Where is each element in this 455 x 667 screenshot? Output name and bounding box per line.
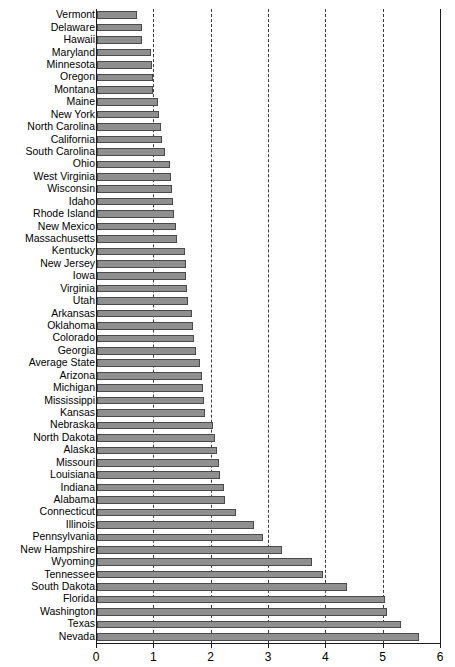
- category-label: New Jersey: [40, 258, 95, 269]
- bar: [97, 235, 177, 243]
- category-label: Mississippi: [44, 395, 95, 406]
- bar: [97, 335, 194, 343]
- bar: [97, 260, 186, 268]
- category-label: Iowa: [73, 270, 95, 281]
- gridline-4: [325, 9, 326, 643]
- category-label: Maryland: [52, 47, 95, 58]
- category-label: Michigan: [53, 382, 95, 393]
- category-label: Oregon: [60, 71, 95, 82]
- x-tick-label: 0: [81, 649, 111, 665]
- category-label: Colorado: [52, 332, 95, 343]
- bar: [97, 61, 152, 69]
- bar: [97, 86, 153, 94]
- category-label: Oklahoma: [47, 320, 95, 331]
- bar: [97, 372, 202, 380]
- x-tick-mark-1: [153, 643, 154, 648]
- bar: [97, 571, 323, 579]
- category-label: Florida: [63, 593, 95, 604]
- bar: [97, 484, 224, 492]
- category-label: South Carolina: [26, 146, 95, 157]
- bar: [97, 322, 193, 330]
- category-label: Wisconsin: [47, 183, 95, 194]
- bar: [97, 111, 159, 119]
- x-tick-mark-2: [211, 643, 212, 648]
- category-label: Alabama: [54, 494, 95, 505]
- bar: [97, 434, 215, 442]
- category-label: South Dakota: [31, 581, 95, 592]
- bar: [97, 136, 162, 144]
- bar: [97, 558, 312, 566]
- bar: [97, 583, 347, 591]
- category-label: Connecticut: [40, 506, 95, 517]
- bar: [97, 173, 171, 181]
- bar: [97, 98, 158, 106]
- bar: [97, 546, 282, 554]
- bar: [97, 384, 203, 392]
- category-label: Texas: [68, 618, 95, 629]
- x-tick-mark-5: [383, 643, 384, 648]
- bar: [97, 285, 187, 293]
- category-label: Pennsylvania: [33, 531, 95, 542]
- category-label: California: [51, 134, 95, 145]
- bar: [97, 509, 236, 517]
- bar: [97, 272, 186, 280]
- category-label: Washington: [40, 606, 95, 617]
- x-tick-label: 2: [196, 649, 226, 665]
- category-label: Idaho: [69, 196, 95, 207]
- category-label: Illinois: [66, 519, 95, 530]
- bar: [97, 608, 387, 616]
- bar: [97, 397, 204, 405]
- bar: [97, 161, 170, 169]
- bar: [97, 148, 165, 156]
- category-label: Vermont: [56, 9, 95, 20]
- x-tick-label: 1: [138, 649, 168, 665]
- x-tick-label: 3: [253, 649, 283, 665]
- bar: [97, 123, 161, 131]
- category-label: Kentucky: [52, 245, 95, 256]
- bar: [97, 471, 220, 479]
- bar: [97, 185, 172, 193]
- x-tick-label: 6: [425, 649, 455, 665]
- category-label: North Carolina: [27, 121, 95, 132]
- category-label: Delaware: [51, 22, 95, 33]
- category-label: Ohio: [73, 158, 95, 169]
- category-label: Missouri: [56, 457, 95, 468]
- category-label: Maine: [66, 96, 95, 107]
- x-tick-mark-6: [440, 643, 441, 648]
- category-label: West Virginia: [34, 171, 95, 182]
- bar: [97, 210, 174, 218]
- category-label: Montana: [54, 84, 95, 95]
- plot-right-border: [440, 9, 441, 643]
- bar: [97, 24, 142, 32]
- category-label: Utah: [73, 295, 95, 306]
- category-label: Virginia: [60, 283, 95, 294]
- bar: [97, 310, 192, 318]
- bar: [97, 534, 263, 542]
- bar: [97, 422, 213, 430]
- category-label: Louisiana: [50, 469, 95, 480]
- category-label: Nebraska: [50, 419, 95, 430]
- category-label: Indiana: [61, 482, 95, 493]
- bar: [97, 633, 419, 641]
- bar: [97, 198, 173, 206]
- category-label: Alaska: [63, 444, 95, 455]
- category-label: Wyoming: [51, 556, 95, 567]
- bar: [97, 409, 205, 417]
- category-label: New Mexico: [38, 221, 95, 232]
- bar: [97, 248, 185, 256]
- bar: [97, 496, 225, 504]
- bar: [97, 223, 176, 231]
- category-label: New York: [51, 109, 95, 120]
- bar: [97, 621, 401, 629]
- bar: [97, 297, 188, 305]
- x-tick-label: 5: [368, 649, 398, 665]
- bar: [97, 347, 196, 355]
- category-label: Minnesota: [47, 59, 95, 70]
- category-label: Massachusetts: [25, 233, 95, 244]
- bar: [97, 447, 217, 455]
- category-label: Nevada: [59, 631, 95, 642]
- category-label: North Dakota: [33, 432, 95, 443]
- horizontal-bar-chart: 0123456 VermontDelawareHawaiiMarylandMin…: [0, 0, 455, 667]
- x-tick-mark-0: [96, 643, 97, 648]
- bar: [97, 521, 254, 529]
